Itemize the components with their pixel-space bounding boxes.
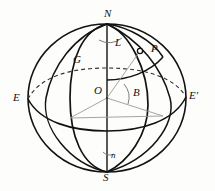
sphere-diagram-svg — [0, 0, 215, 191]
label-greenwich-meridian: G — [73, 54, 81, 65]
meridian-left-outer — [45, 24, 107, 172]
radius-o-to-foot-left — [70, 98, 107, 118]
label-east-right: E' — [189, 90, 198, 101]
label-south-pole: S — [103, 172, 109, 183]
point-p-marker — [137, 48, 142, 53]
parallel-of-latitude-arc-right — [107, 57, 163, 80]
label-east-left: E — [13, 92, 20, 103]
radius-o-to-foot-right — [107, 98, 163, 116]
meridian-greenwich — [70, 24, 107, 172]
label-longitude-angle: L — [115, 37, 121, 48]
label-latitude-angle: B — [133, 87, 140, 98]
angle-arc-latitude-b — [124, 84, 129, 104]
label-center-o: O — [94, 85, 102, 96]
chord-foot-left-to-right — [70, 116, 163, 118]
center-o-marker — [106, 97, 108, 99]
figure-root: N S O E E' G P L B n — [0, 0, 215, 191]
label-point-p: P — [151, 43, 158, 54]
label-north-pole: N — [104, 8, 111, 19]
label-foot-angle-n: n — [111, 151, 116, 160]
